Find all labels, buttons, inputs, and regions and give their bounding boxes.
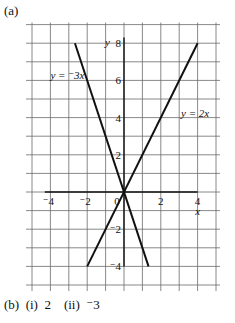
equation-label-neg3x: y = ⁻3x: [49, 69, 84, 81]
y-tick-label: 6: [116, 74, 122, 86]
equation-label-2x: y = 2x: [180, 107, 209, 119]
y-tick-label: 4: [116, 112, 122, 124]
y-tick-label: ⁻2: [110, 223, 121, 235]
x-tick-label: ⁻2: [80, 195, 91, 207]
x-tick-label: 2: [158, 195, 164, 207]
x-tick-label: 0: [114, 195, 120, 207]
x-tick-label: ⁻4: [43, 195, 55, 207]
y-tick-label: ⁻4: [110, 260, 122, 272]
y-tick-label: 8: [116, 37, 122, 49]
part-b-answers: (b) (i) 2 (ii) ⁻3: [4, 297, 100, 313]
y-tick-label: 2: [116, 149, 122, 161]
x-axis-label: x: [194, 205, 200, 217]
line-graph: ⁻4⁻20248642⁻2⁻4yxy = ⁻3xy = 2x: [0, 0, 235, 323]
y-axis-label: y: [104, 36, 110, 48]
